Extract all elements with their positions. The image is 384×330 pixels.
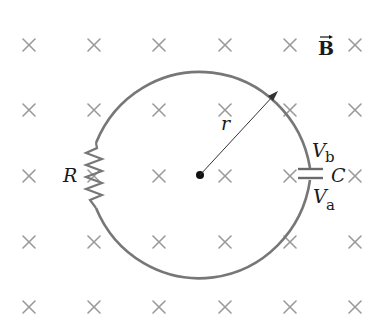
field-into-page-icon	[23, 236, 35, 248]
radius-arrow	[200, 95, 274, 175]
field-into-page-icon	[349, 39, 361, 51]
circuit-loop	[86, 72, 323, 278]
field-into-page-icon	[88, 236, 100, 248]
magnetic-field-label: B	[318, 35, 334, 59]
svg-text:b: b	[325, 148, 335, 166]
capacitor-label: C	[331, 164, 346, 186]
svg-text:a: a	[326, 196, 335, 214]
wire-bottom-arc	[96, 180, 310, 278]
field-into-page-icon	[349, 104, 361, 116]
field-into-page-icon	[23, 39, 35, 51]
wire-top-arc	[96, 72, 310, 168]
field-into-page-icon	[88, 301, 100, 313]
field-into-page-icon	[349, 170, 361, 182]
field-into-page-icon	[349, 236, 361, 248]
field-into-page-icon	[23, 170, 35, 182]
field-into-page-icon	[284, 39, 296, 51]
field-into-page-icon	[219, 170, 231, 182]
field-into-page-icon	[153, 236, 165, 248]
field-into-page-icon	[284, 301, 296, 313]
field-into-page-icon	[284, 170, 296, 182]
field-into-page-icon	[23, 301, 35, 313]
field-into-page-icon	[219, 39, 231, 51]
field-into-page-icon	[349, 301, 361, 313]
field-into-page-icon	[88, 104, 100, 116]
circuit-diagram: r R C V b V a B	[0, 0, 384, 330]
field-into-page-icon	[88, 39, 100, 51]
field-into-page-icon	[219, 301, 231, 313]
field-into-page-icon	[153, 170, 165, 182]
resistor-label: R	[62, 164, 77, 186]
field-into-page-icon	[23, 104, 35, 116]
field-into-page-icon	[219, 236, 231, 248]
field-into-page-icon	[153, 39, 165, 51]
va-label: V a	[313, 185, 335, 214]
field-into-page-icon	[153, 301, 165, 313]
svg-text:B: B	[318, 37, 334, 59]
field-into-page-icon	[153, 104, 165, 116]
vb-label: V b	[312, 139, 335, 166]
